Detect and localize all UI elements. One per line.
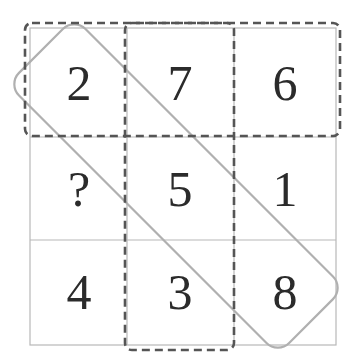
- cell-r2c1: ?: [68, 161, 90, 217]
- cell-r3c1: 4: [67, 264, 92, 320]
- cell-r3c2: 3: [168, 264, 193, 320]
- cell-r2c2: 5: [168, 161, 193, 217]
- cell-r1c3: 6: [273, 55, 298, 111]
- cell-r1c1: 2: [67, 55, 92, 111]
- magic-square-diagram: 2 7 6 ? 5 1 4 3 8: [0, 0, 352, 355]
- cell-r3c3: 8: [273, 264, 298, 320]
- cell-values: 2 7 6 ? 5 1 4 3 8: [67, 55, 298, 320]
- cell-r1c2: 7: [168, 55, 193, 111]
- cell-r2c3: 1: [273, 161, 298, 217]
